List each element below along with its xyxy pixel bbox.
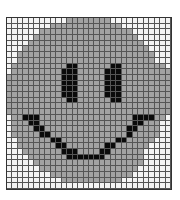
background-pixel (166, 183, 171, 189)
smiley-pixel-grid (6, 17, 172, 190)
